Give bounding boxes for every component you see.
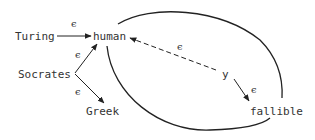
edge-label-socrates-greek: ϵ [75,86,81,97]
node-y: y [222,68,229,81]
edge-label-y-human: ϵ [177,41,183,52]
edge-label-turing-human: ϵ [71,18,77,29]
edge-label-socrates-human: ϵ [75,49,81,60]
node-fallible: fallible [250,105,303,118]
node-human: human [93,30,126,43]
enclosing-loop [107,46,270,130]
edge-y-fallible [234,79,249,101]
node-socrates: Socrates [18,68,71,81]
node-turing: Turing [15,30,55,43]
enclosing-loop-top [118,12,282,98]
node-greek: Greek [86,105,119,118]
diagram-canvas: Turing human Socrates Greek y fallible ϵ… [0,0,315,140]
edge-label-y-fallible: ϵ [251,84,257,95]
edge-y-human [130,38,216,70]
